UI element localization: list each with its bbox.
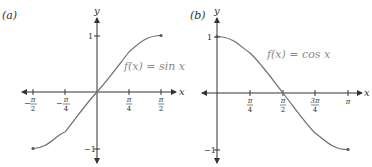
sine-endpoint-right: [159, 34, 162, 37]
sine-endpoint-left: [31, 147, 34, 150]
x-tick-label-pi-over-2: π 2: [158, 96, 164, 113]
svg-text:2: 2: [159, 105, 163, 113]
cosine-endpoint-right: [346, 148, 349, 151]
svg-text:−: −: [24, 99, 31, 108]
panel-label-a: (a): [2, 9, 17, 22]
svg-text:π: π: [280, 97, 286, 105]
x-tick-label-pi-over-4: π 4: [126, 96, 132, 113]
x-tick-label-pi-b: π: [345, 98, 351, 106]
function-label-sin: f(x) = sin x: [123, 60, 186, 73]
svg-text:4: 4: [248, 106, 253, 114]
x-axis-label-b: x: [364, 87, 370, 98]
figure: (a) x y 1 −1 − π 2 − π: [0, 0, 372, 167]
x-tick-label-3pi-over-4-b: 3π 4: [310, 97, 319, 114]
svg-text:4: 4: [127, 105, 132, 113]
svg-text:π: π: [247, 97, 253, 105]
panel-label-b: (b): [190, 9, 206, 22]
x-tick-label-pi-over-4-b: π 4: [247, 97, 253, 114]
y-tick-label-neg1: −1: [84, 145, 96, 154]
x-tick-label-neg-pi-over-2: − π 2: [24, 96, 37, 113]
y-tick-label-1: 1: [88, 32, 93, 41]
svg-text:π: π: [126, 96, 132, 104]
svg-text:−: −: [56, 99, 63, 108]
x-axis-label: x: [179, 86, 185, 97]
function-label-cos: f(x) = cos x: [266, 48, 331, 61]
svg-text:3π: 3π: [310, 97, 319, 105]
svg-text:2: 2: [281, 106, 285, 114]
y-tick-label-1-b: 1: [207, 33, 212, 42]
svg-text:π: π: [158, 96, 164, 104]
y-axis-label-b: y: [213, 5, 220, 16]
svg-text:π: π: [63, 96, 69, 104]
cosine-endpoint-left: [215, 35, 218, 38]
x-tick-label-neg-pi-over-4: − π 4: [56, 96, 70, 113]
svg-text:4: 4: [64, 105, 69, 113]
svg-text:2: 2: [31, 105, 35, 113]
y-axis-label: y: [93, 5, 100, 16]
svg-text:4: 4: [313, 106, 318, 114]
svg-text:π: π: [30, 96, 36, 104]
svg-text:π: π: [345, 98, 351, 106]
x-tick-label-pi-over-2-b: π 2: [280, 97, 286, 114]
panel-a-sine: (a) x y 1 −1 − π 2 − π: [2, 5, 186, 163]
panel-b-cosine: (b) x y 1 −1 π 4 π 2 3: [190, 5, 370, 163]
y-tick-label-neg1-b: −1: [204, 146, 216, 155]
